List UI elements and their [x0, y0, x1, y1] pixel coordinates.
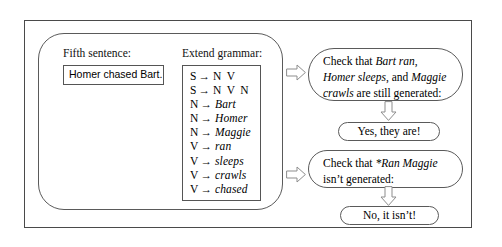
check-answer-pill: No, it isn’t! — [340, 206, 439, 225]
prompt-text: are still generated: — [354, 87, 442, 99]
grammar-rules-box: S→N VS→N V NN→BartN→HomerN→MaggieV→ranV→… — [182, 65, 261, 201]
rule-lhs: S — [190, 84, 197, 96]
grammar-rule: N→Bart — [183, 97, 260, 111]
rule-arrow-icon: → — [198, 98, 215, 110]
rule-lhs: S — [190, 70, 197, 82]
grammar-rule: N→Homer — [183, 111, 260, 125]
arrow-right-icon — [286, 64, 306, 81]
rule-arrow-icon: → — [198, 126, 215, 138]
prompt-text: Check that — [323, 55, 375, 67]
rule-arrow-icon: → — [198, 140, 215, 152]
rule-arrow-icon: → — [198, 183, 215, 195]
prompt-text: Check that — [323, 157, 375, 169]
grammar-rule: V→crawls — [183, 168, 260, 182]
prompt-emphasis: Bart ran — [375, 55, 414, 67]
grammar-rule: S→N V — [183, 69, 260, 83]
sentence-column: Fifth sentence: Homer chased Bart. — [63, 47, 164, 85]
grammar-rule: V→chased — [183, 182, 260, 196]
rule-arrow-icon: → — [198, 169, 215, 181]
rule-rhs: Bart — [215, 98, 236, 110]
prompt-text: , and — [386, 71, 411, 83]
prompt-emphasis: Homer sleeps — [323, 71, 386, 83]
rule-rhs: sleeps — [215, 155, 244, 167]
prompt-emphasis: *Ran Maggie — [375, 157, 437, 169]
rule-rhs: chased — [215, 183, 248, 195]
grammar-rule: V→sleeps — [183, 154, 260, 168]
rule-rhs: N V — [213, 70, 236, 82]
grammar-label: Extend grammar: — [182, 47, 262, 60]
rule-rhs: Homer — [215, 112, 247, 124]
sentence-label: Fifth sentence: — [63, 47, 164, 60]
prompt-text: isn’t generated: — [323, 173, 394, 185]
left-input-panel: Fifth sentence: Homer chased Bart. Exten… — [38, 33, 283, 210]
rule-arrow-icon: → — [197, 70, 214, 82]
arrow-down-icon — [380, 101, 397, 121]
rule-arrow-icon: → — [197, 84, 214, 96]
rule-rhs: Maggie — [215, 126, 251, 138]
rule-rhs: N V N — [213, 84, 250, 96]
rule-rhs: crawls — [215, 169, 246, 181]
rule-arrow-icon: → — [198, 112, 215, 124]
arrow-right-icon — [286, 166, 306, 183]
prompt-text: , — [415, 55, 418, 67]
figure-root: Fifth sentence: Homer chased Bart. Exten… — [0, 0, 502, 247]
check-answer-pill: Yes, they are! — [338, 122, 440, 141]
grammar-rule: N→Maggie — [183, 125, 260, 139]
grammar-rule: S→N V N — [183, 83, 260, 97]
sentence-value-box: Homer chased Bart. — [63, 65, 164, 85]
grammar-rule: V→ran — [183, 139, 260, 153]
check-prompt-box: Check that Bart ran, Homer sleeps, and M… — [308, 48, 463, 101]
arrow-down-icon — [380, 186, 397, 206]
check-prompt-box: Check that *Ran Maggie isn’t generated: — [308, 150, 463, 188]
grammar-column: Extend grammar: S→N VS→N V NN→BartN→Home… — [182, 47, 262, 201]
rule-rhs: ran — [215, 140, 231, 152]
rule-arrow-icon: → — [198, 155, 215, 167]
